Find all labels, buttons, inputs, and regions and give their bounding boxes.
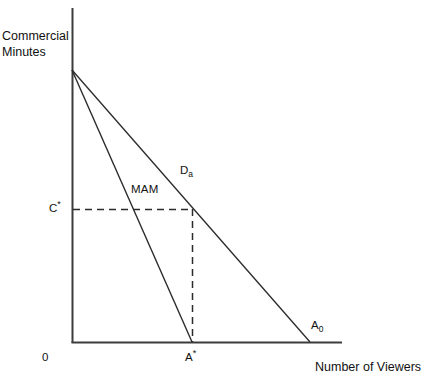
a-star-asterisk: * [193,348,197,358]
a0-main: A [311,319,319,331]
c-star-axis-label: C* [49,201,61,216]
mam-marginal-line [72,70,192,342]
economics-diagram-figure: CommercialMinutes Number of Viewers 0 C*… [0,0,442,386]
y-axis-title-line1: Commercial [2,29,69,43]
mam-curve-label: MAM [131,182,158,197]
c-star-asterisk: * [57,199,61,209]
a0-intercept-label: A0 [311,318,323,333]
y-axis-title-line2: Minutes [2,45,46,59]
a-star-main: A [185,351,193,363]
y-axis-title: CommercialMinutes [2,28,68,60]
da-demand-line [72,70,310,342]
da-curve-label: Da [180,163,193,178]
origin-label: 0 [42,350,48,365]
x-axis-title: Number of Viewers [315,359,421,375]
a-star-axis-label: A* [185,350,196,365]
a0-subscript: 0 [319,324,324,334]
da-subscript: a [188,169,193,179]
